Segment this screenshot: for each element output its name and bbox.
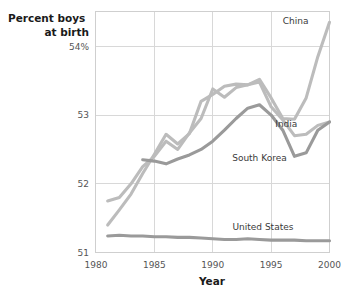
series-label-china: China (283, 16, 309, 26)
x-tick-label: 1980 (85, 260, 108, 270)
series-label-united-states: United States (232, 222, 293, 232)
x-tick-label: 1985 (143, 260, 166, 270)
x-tick-label: 2000 (318, 260, 341, 270)
gridlines (96, 12, 330, 253)
series-labels: ChinaIndiaSouth KoreaUnited States (232, 16, 308, 231)
y-tick-label: 51 (78, 248, 89, 258)
y-tick-label: 53 (78, 110, 89, 120)
series-line-united-states (108, 235, 330, 241)
series-label-india: India (275, 119, 297, 129)
y-tick-label: 54% (69, 42, 89, 52)
x-tick-label: 1990 (201, 260, 224, 270)
series-label-south-korea: South Korea (232, 153, 287, 163)
chart-page: 51525354% 19801985199019952000 ChinaIndi… (0, 0, 343, 288)
y-axis-title-line2: at birth (44, 26, 89, 38)
series-line-india (108, 82, 330, 201)
y-tick-label: 52 (78, 179, 89, 189)
y-axis-ticks: 51525354% (69, 42, 89, 258)
y-axis-title-line1: Percent boys (8, 12, 85, 24)
x-axis-title: Year (198, 275, 226, 287)
data-series-lines (108, 22, 330, 241)
x-tick-label: 1995 (260, 260, 283, 270)
line-chart: 51525354% 19801985199019952000 ChinaIndi… (0, 0, 343, 288)
x-axis-ticks: 19801985199019952000 (85, 260, 342, 270)
